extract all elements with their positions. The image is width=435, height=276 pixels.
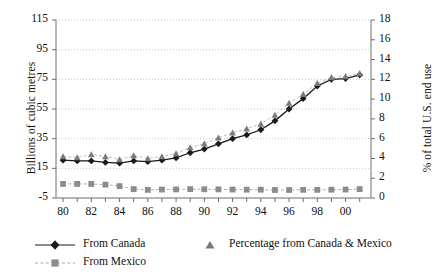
chart-container: Billions of cubic metres % of total U.S.… [0, 0, 435, 276]
data-point-diamond [102, 159, 109, 166]
data-point-triangle [130, 152, 137, 158]
data-point-square [244, 187, 250, 193]
data-point-diamond [257, 126, 264, 133]
plot-area [0, 0, 435, 276]
data-point-square [131, 186, 137, 192]
data-point-square [357, 186, 363, 192]
data-point-square [300, 187, 306, 193]
data-point-square [88, 181, 94, 187]
data-point-square [329, 187, 335, 193]
legend-label-from-canada: From Canada [83, 237, 145, 249]
data-point-diamond [201, 146, 208, 153]
data-point-square [60, 181, 66, 187]
data-point-diamond [187, 149, 194, 156]
data-point-square [159, 187, 165, 193]
legend-label-from-mexico: From Mexico [83, 255, 146, 267]
series-line-diamond [63, 75, 360, 163]
data-point-triangle [258, 121, 265, 127]
data-point-diamond [229, 135, 236, 142]
data-point-triangle [173, 150, 180, 156]
data-point-square [258, 187, 264, 193]
legend-marker-diamond-line [33, 238, 79, 252]
data-point-triangle [159, 153, 166, 159]
data-point-diamond [243, 132, 250, 139]
chart-legend: From Canada From Mexico Percentage from … [0, 236, 435, 276]
data-point-square [103, 182, 109, 188]
data-point-triangle [201, 140, 208, 146]
data-point-square [187, 186, 193, 192]
data-point-triangle [215, 134, 222, 140]
data-point-triangle [88, 151, 95, 157]
data-point-square [314, 187, 320, 193]
legend-label-percentage: Percentage from Canada & Mexico [229, 237, 392, 249]
data-point-square [343, 187, 349, 193]
data-point-diamond [215, 140, 222, 147]
legend-marker-square-line [33, 256, 79, 270]
data-point-diamond [88, 158, 95, 165]
data-point-square [145, 187, 151, 193]
data-point-diamond [130, 158, 137, 165]
data-point-square [74, 181, 80, 187]
data-point-triangle [286, 100, 293, 106]
data-point-square [286, 187, 292, 193]
data-point-triangle [356, 70, 363, 76]
data-point-triangle [314, 80, 321, 86]
data-point-square [230, 187, 236, 193]
legend-marker-triangle [196, 238, 226, 252]
data-point-triangle [102, 153, 109, 159]
data-point-square [272, 187, 278, 193]
data-point-square [201, 186, 207, 192]
data-point-triangle [243, 125, 250, 131]
data-point-square [173, 186, 179, 192]
data-point-square [216, 186, 222, 192]
data-point-square [117, 183, 123, 189]
